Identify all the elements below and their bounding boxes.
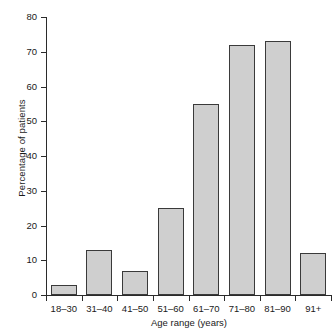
y-tick-label: 80: [26, 10, 37, 23]
x-tick-mark: [117, 296, 118, 301]
bar: [193, 104, 219, 295]
bar: [51, 285, 77, 295]
y-tick-label: 60: [26, 80, 37, 93]
bar-chart-figure: Percentage of patients 01020304050607080…: [0, 0, 335, 333]
x-tick-mark: [260, 296, 261, 301]
plot-area: [46, 17, 331, 295]
x-axis-title: Age range (years): [46, 317, 332, 329]
y-tick-70: 70: [0, 52, 46, 53]
x-tick-label: 18–30: [46, 303, 82, 315]
x-tick-label: 71–80: [224, 303, 260, 315]
x-tick-mark: [46, 296, 47, 301]
y-tick-60: 60: [0, 87, 46, 88]
x-tick-mark: [295, 296, 296, 301]
y-tick-label: 30: [26, 184, 37, 197]
y-tick-label: 20: [26, 219, 37, 232]
x-tick-label: 91+: [295, 303, 331, 315]
x-tick-label: 81–90: [260, 303, 296, 315]
x-tick-mark: [189, 296, 190, 301]
x-tick-mark: [82, 296, 83, 301]
y-tick-label: 40: [26, 149, 37, 162]
x-tick-mark: [153, 296, 154, 301]
bar: [158, 208, 184, 295]
bar: [229, 45, 255, 295]
y-tick-label: 70: [26, 45, 37, 58]
y-tick-40: 40: [0, 156, 46, 157]
y-tick-30: 30: [0, 191, 46, 192]
bar: [265, 41, 291, 295]
x-tick-label: 41–50: [117, 303, 153, 315]
bar: [300, 253, 326, 295]
x-tick-label: 51–60: [153, 303, 189, 315]
y-tick-label: 10: [26, 253, 37, 266]
y-tick-label: 0: [32, 288, 37, 301]
x-tick-mark: [224, 296, 225, 301]
y-tick-label: 50: [26, 114, 37, 127]
y-tick-50: 50: [0, 121, 46, 122]
x-tick-mark: [331, 296, 332, 301]
y-tick-10: 10: [0, 260, 46, 261]
x-tick-label: 61–70: [189, 303, 225, 315]
bar: [86, 250, 112, 295]
y-tick-20: 20: [0, 226, 46, 227]
y-tick-0: 0: [0, 295, 46, 296]
x-tick-label: 31–40: [82, 303, 118, 315]
y-tick-80: 80: [0, 17, 46, 18]
bar: [122, 271, 148, 295]
